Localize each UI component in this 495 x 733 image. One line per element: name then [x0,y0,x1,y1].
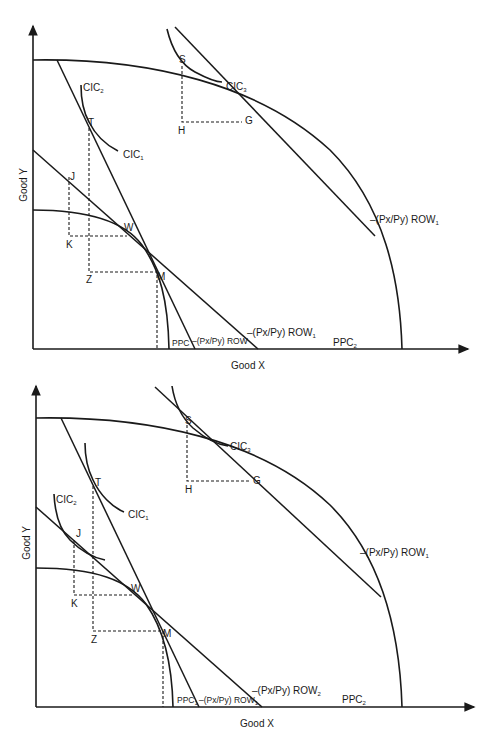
row-mid-price-line [36,507,262,707]
point-h-label: H [185,484,192,495]
ppc1-label: PPC [172,338,189,348]
trade-triangle-shg [187,425,250,481]
row-steep-price-line [61,418,199,707]
cic3-label: CIC3 [226,81,247,93]
point-j-label: J [70,171,75,182]
row-steep-price-line [57,60,195,349]
ppc1-label: PPC1 [177,695,198,706]
row-steep-label: –(Px/Py) ROW1 [199,695,259,706]
ppc2-curve [36,418,402,707]
row-mid-label: –(Px/Py) ROW2 [252,685,322,697]
ppc1-curve [36,568,173,707]
ppc2-label: PPC2 [333,337,358,349]
ppc1-curve [33,210,169,349]
point-s-label: S [185,415,192,426]
cic1-cic2-curve [81,85,118,151]
point-k-label: K [66,239,73,250]
row-steep-label: –(Px/Py) ROW [192,336,248,346]
point-w-label: W [124,222,134,233]
point-g-label: G [245,115,253,126]
point-h-label: H [178,125,185,136]
point-t-label: T [95,477,101,488]
ppc2-label: PPC2 [342,694,367,706]
top-diagram: S G H T J K W M Z CIC2 CIC1 CIC3 –(Px/Py… [18,26,468,371]
point-j-label: J [76,528,81,539]
x-axis-label: Good X [240,718,274,729]
point-z-label: Z [91,634,97,645]
x-axis-label: Good X [231,360,265,371]
point-z-label: Z [86,274,92,285]
bottom-diagram: S G H T J K W M Z CIC2 CIC1 CIC3 –(Px/Py… [21,386,474,729]
row-top-price-line [175,27,375,236]
cic1-curve [85,443,124,512]
cic3-label: CIC3 [230,441,251,453]
trade-triangle-shg [182,66,242,122]
point-g-label: G [253,475,261,486]
point-t-label: T [88,117,94,128]
point-m-label: M [163,628,171,639]
row-top-label: –(Px/Py) ROW1 [370,214,440,226]
cic1-label: CIC1 [123,149,144,161]
point-m-label: M [157,271,165,282]
point-k-label: K [71,598,78,609]
y-axis-label: Good Y [21,526,32,560]
cic2-label: CIC2 [83,82,104,94]
ppc2-curve [33,60,402,349]
row-mid-label: –(Px/Py) ROW1 [247,327,317,339]
y-axis-label: Good Y [18,168,29,202]
cic1-label: CIC1 [128,509,149,521]
cic2-label: CIC2 [56,494,77,506]
trade-diagrams: S G H T J K W M Z CIC2 CIC1 CIC3 –(Px/Py… [0,0,495,733]
trade-triangle-tzm [89,128,157,349]
point-w-label: W [131,583,141,594]
row-top-label: –(Px/Py) ROW1 [360,547,430,559]
point-s-label: S [179,54,186,65]
